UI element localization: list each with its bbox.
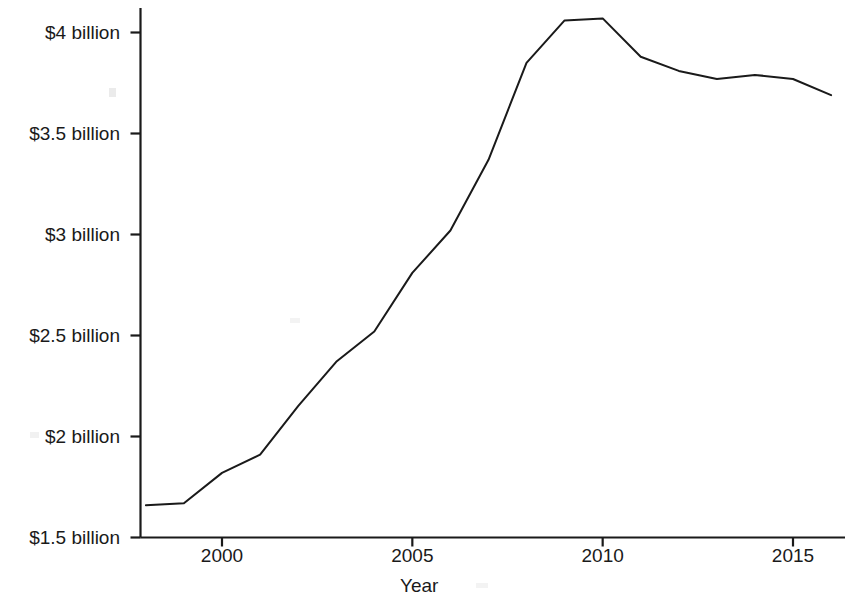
plot-area	[0, 0, 849, 603]
axis-lines	[141, 8, 846, 538]
y-axis-tick-marks	[131, 33, 141, 538]
x-axis-tick-marks	[222, 538, 793, 547]
line-chart: Lobbying Spending by Mainstream Groups $…	[0, 0, 849, 603]
data-series-line	[146, 18, 831, 505]
